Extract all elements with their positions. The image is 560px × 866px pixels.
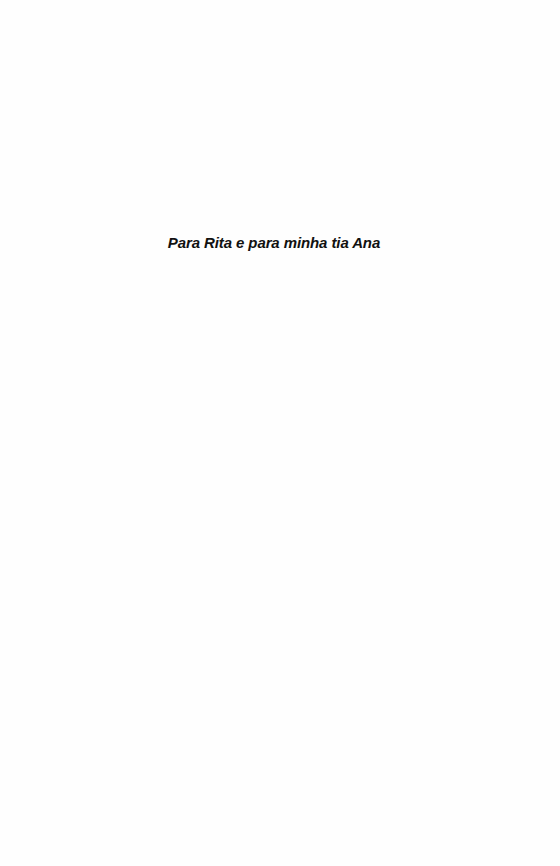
book-page: Para Rita e para minha tia Ana xyxy=(0,0,560,866)
dedication-text: Para Rita e para minha tia Ana xyxy=(0,233,560,253)
